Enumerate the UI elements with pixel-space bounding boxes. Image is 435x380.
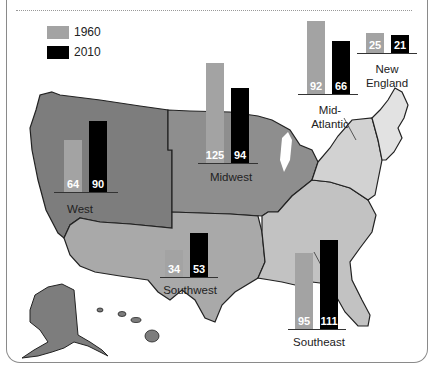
label-midwest: Midwest: [206, 170, 256, 184]
legend-item-2010: 2010: [47, 42, 101, 62]
bar-midwest-1960: 125: [206, 63, 224, 163]
bar-southeast-2010: 111: [320, 240, 338, 329]
bar-mid-atlantic-1960: 92: [307, 21, 325, 94]
baseline-midwest: [198, 163, 258, 164]
legend-swatch-2010: [47, 46, 69, 59]
label-mid-atlantic-line1: Mid-: [308, 103, 352, 117]
region-alaska-shape: [22, 284, 108, 358]
bar-west-2010: 90: [89, 121, 107, 192]
region-hawaii-shape: [97, 308, 159, 342]
label-west: West: [60, 202, 100, 216]
legend-item-1960: 1960: [47, 22, 101, 42]
bar-midwest-2010: 94: [231, 88, 249, 163]
legend: 1960 2010: [47, 22, 101, 62]
label-southwest: Southwest: [160, 283, 220, 297]
label-new-england-line1: New: [362, 62, 412, 76]
baseline-new-england: [357, 53, 417, 54]
bar-west-1960: 64: [64, 140, 82, 192]
legend-label-1960: 1960: [74, 25, 101, 39]
label-mid-atlantic-line2: Atlantic: [308, 117, 352, 131]
legend-label-2010: 2010: [74, 45, 101, 59]
legend-swatch-1960: [47, 26, 69, 39]
bar-southwest-2010: 53: [190, 233, 208, 277]
baseline-mid-atlantic: [298, 94, 358, 95]
baseline-west: [54, 192, 118, 193]
label-new-england-line2: England: [362, 76, 412, 90]
bar-mid-atlantic-2010: 66: [332, 41, 350, 94]
bar-new-england-1960: 25: [366, 33, 384, 53]
bar-southwest-1960: 34: [165, 250, 183, 277]
baseline-southwest: [160, 277, 218, 278]
bar-new-england-2010: 21: [391, 35, 409, 53]
bar-southeast-1960: 95: [295, 253, 313, 329]
label-new-england: New England: [362, 62, 412, 90]
baseline-southeast: [288, 329, 346, 330]
label-mid-atlantic: Mid- Atlantic: [308, 103, 352, 131]
label-southeast: Southeast: [288, 335, 350, 349]
